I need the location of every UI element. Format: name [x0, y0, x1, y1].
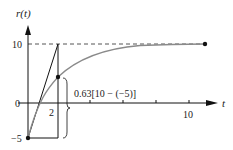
start-point [26, 136, 30, 140]
annotation-label: 0.63[10 − (−5)] [74, 88, 136, 100]
y-tick-label-0: 0 [15, 98, 20, 109]
x-axis-arrow-icon [206, 100, 218, 106]
annotation-brace [63, 78, 70, 138]
y-axis-label: r(t) [16, 7, 31, 20]
x-axis-label: t [222, 97, 226, 109]
x-tick-label-10: 10 [183, 109, 193, 120]
y-tick-label-10: 10 [12, 39, 22, 50]
t2-point [56, 75, 60, 79]
y-tick-label-neg5: −5 [11, 133, 22, 144]
end-point [203, 42, 207, 46]
y-axis-arrow-icon [25, 25, 31, 35]
x-tick-label-2: 2 [49, 107, 54, 118]
step-response-diagram: r(t) t 10 0 −5 2 10 0.63[10 − (−5)] [0, 0, 233, 150]
